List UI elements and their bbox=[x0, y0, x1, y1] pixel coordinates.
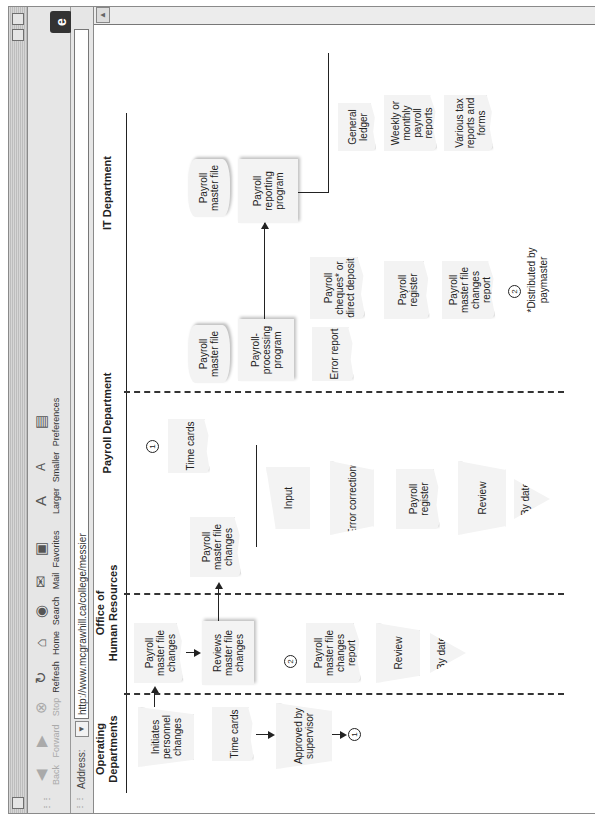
shape-it-error-report: Error report bbox=[312, 327, 356, 381]
collapse-box[interactable] bbox=[12, 13, 24, 25]
shape-it-payroll-register: Payroll register bbox=[384, 261, 432, 319]
off-page-connector-1-in: 1 bbox=[146, 440, 159, 453]
preferences-icon: ▤ bbox=[31, 397, 51, 447]
off-page-connector-2-out: 2 bbox=[508, 285, 521, 298]
shape-reviews-master-file-changes: Reviews master file changes bbox=[202, 621, 254, 685]
vertical-scrollbar[interactable]: ▲ bbox=[94, 7, 595, 25]
shape-it-changes-report: Payroll master file changes report bbox=[442, 261, 498, 319]
connector-line bbox=[298, 192, 328, 193]
shape-it-general-ledger: General ledger bbox=[338, 103, 378, 151]
lane-divider-2 bbox=[124, 593, 564, 595]
favorites-button[interactable]: ▣Favorites bbox=[31, 529, 61, 569]
address-label: Address: bbox=[76, 750, 87, 789]
page-content: Operating Departments Office of Human Re… bbox=[94, 25, 595, 813]
forward-button[interactable]: ▶Forward bbox=[31, 721, 61, 761]
shape-pd-error-corrections: Error corrections bbox=[330, 461, 374, 535]
arrow-head bbox=[261, 222, 269, 229]
col-header-operating: Operating Departments bbox=[94, 699, 120, 799]
off-page-connector-2: 2 bbox=[284, 655, 297, 668]
larger-button[interactable]: ALarger bbox=[31, 481, 61, 521]
shape-pd-review: Review bbox=[458, 461, 506, 535]
toolbar: ⋮⋮ ◀Back ▶Forward ⊗Stop ↻Refresh ⌂Home ◉… bbox=[28, 7, 71, 813]
lane-divider-3 bbox=[124, 391, 564, 393]
arrow-head bbox=[151, 686, 159, 693]
shape-it-tax-reports: Various tax reports and forms bbox=[444, 95, 496, 151]
favorites-icon: ▣ bbox=[31, 529, 51, 569]
connector-line bbox=[328, 53, 329, 193]
shape-pd-payroll-register: Payroll register bbox=[396, 469, 442, 529]
forward-arrow-icon: ▶ bbox=[31, 721, 51, 761]
browser-logo: e bbox=[50, 11, 72, 33]
scroll-up-button[interactable]: ▲ bbox=[96, 7, 110, 23]
arrow-head bbox=[215, 582, 223, 589]
back-button[interactable]: ◀Back bbox=[31, 755, 61, 795]
col-header-it: IT Department bbox=[101, 93, 114, 293]
shape-it-cheques: Payroll cheques* or direct deposit bbox=[310, 257, 368, 319]
rotated-browser-frame: ⋮⋮ ◀Back ▶Forward ⊗Stop ↻Refresh ⌂Home ◉… bbox=[0, 0, 595, 814]
shape-it-processing-program: Payroll-processing program bbox=[238, 319, 294, 381]
text-smaller-icon: A bbox=[31, 447, 51, 487]
address-input[interactable]: http://www.mcgrawhill.ca/college/messier bbox=[74, 29, 89, 719]
preferences-button[interactable]: ▤Preferences bbox=[31, 397, 61, 447]
shape-hr-changes-report: Payroll master file changes report bbox=[306, 623, 364, 683]
shape-it-payroll-master-file: Payroll master file bbox=[188, 325, 230, 383]
shape-it-reporting-program: Payroll reporting program bbox=[238, 159, 298, 223]
zoom-box[interactable] bbox=[12, 29, 24, 41]
shape-it-weekly-reports: Weekly or monthly payroll reports bbox=[384, 95, 440, 151]
shape-it-payroll-master-file-2: Payroll master file bbox=[188, 159, 230, 217]
connector-line bbox=[218, 587, 219, 621]
back-arrow-icon: ◀ bbox=[31, 755, 51, 795]
shape-pd-time-cards: Time cards bbox=[168, 419, 212, 473]
close-box[interactable] bbox=[12, 797, 24, 809]
title-bar[interactable] bbox=[9, 7, 28, 813]
shape-pd-by-date: By date bbox=[514, 479, 550, 519]
footnote-distributed: *Distributed by paymaster bbox=[526, 235, 550, 325]
col-header-payroll: Payroll Department bbox=[101, 333, 114, 513]
browser-window: ⋮⋮ ◀Back ▶Forward ⊗Stop ↻Refresh ⌂Home ◉… bbox=[8, 6, 595, 814]
header-rule bbox=[126, 113, 127, 793]
shape-approved-by-supervisor: Approved by supervisor bbox=[276, 703, 332, 769]
lane-divider-1 bbox=[124, 693, 564, 695]
smaller-button[interactable]: ASmaller bbox=[31, 447, 61, 487]
text-larger-icon: A bbox=[31, 481, 51, 521]
address-dropdown-button[interactable]: ▼ bbox=[75, 721, 89, 737]
off-page-connector-1: 1 bbox=[348, 728, 361, 741]
arrow-head bbox=[340, 731, 347, 739]
shape-time-cards-op: Time cards bbox=[212, 707, 256, 761]
address-grip-icon[interactable]: ⋮⋮ bbox=[75, 797, 89, 811]
address-bar: ⋮⋮ Address: ▼ http://www.mcgrawhill.ca/c… bbox=[71, 7, 94, 813]
shape-hr-by-date: By date bbox=[430, 633, 466, 673]
col-header-hr: Office of Human Resources bbox=[94, 533, 120, 693]
shape-hr-payroll-master-file-changes: Payroll master file changes bbox=[134, 623, 186, 683]
arrow-head bbox=[268, 731, 275, 739]
shape-pd-payroll-master-file-changes: Payroll master file changes bbox=[190, 517, 244, 577]
refresh-icon: ↻ bbox=[31, 657, 51, 697]
connector-line bbox=[256, 445, 257, 547]
refresh-button[interactable]: ↻Refresh bbox=[31, 657, 61, 697]
connector-line bbox=[264, 223, 265, 319]
toolbar-grip-icon[interactable]: ⋮⋮ bbox=[42, 797, 56, 811]
arrow-head bbox=[194, 649, 201, 657]
shape-initiates-changes: Initiates personnel changes bbox=[138, 707, 194, 767]
shape-hr-review: Review bbox=[376, 623, 420, 683]
shape-pd-input: Input bbox=[266, 467, 310, 529]
